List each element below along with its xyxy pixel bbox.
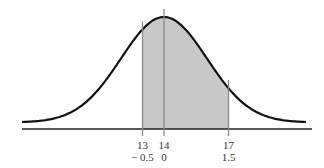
z-tick-label: 1.5 <box>222 151 236 163</box>
z-tick-label: 0 <box>161 151 167 163</box>
x-tick-label: 17 <box>223 139 234 151</box>
z-tick-label: − 0.5 <box>131 151 154 163</box>
x-tick-label: 14 <box>159 139 170 151</box>
x-tick-label: 13 <box>137 139 148 151</box>
